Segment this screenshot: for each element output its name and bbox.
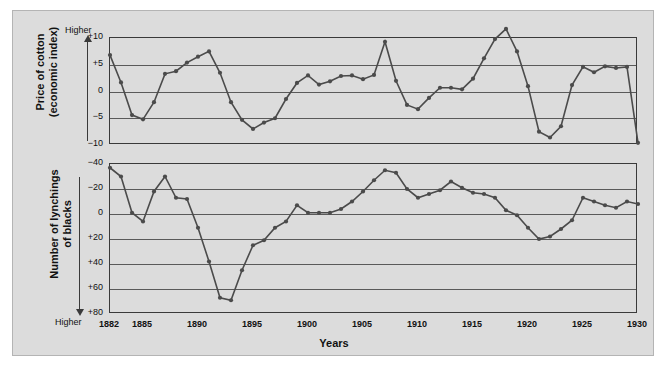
lynchings-of-blacks-point: [592, 199, 596, 203]
lynchings-of-blacks-point: [471, 191, 475, 195]
top-y-axis-title: Price of cotton (economic index): [34, 12, 60, 132]
lynchings-of-blacks-point: [196, 226, 200, 230]
lynchings-of-blacks-point: [383, 168, 387, 172]
price-of-cotton-point: [603, 64, 607, 68]
lynchings-of-blacks-point: [251, 243, 255, 247]
lynchings-of-blacks-point: [284, 219, 288, 223]
lynchings-of-blacks-markers: [108, 166, 640, 303]
bottom-plot-area: [109, 163, 637, 313]
bottom-series-svg: [110, 164, 638, 314]
top-y-axis-title-line1: Price of cotton: [34, 34, 46, 111]
price-of-cotton-point: [229, 100, 233, 104]
bottom-y-tick-label: +40: [69, 257, 103, 267]
x-tick-label: 1910: [397, 319, 437, 329]
price-of-cotton-point: [306, 73, 310, 77]
lynchings-of-blacks-point: [273, 226, 277, 230]
lynchings-of-blacks-point: [207, 259, 211, 263]
price-of-cotton-point: [614, 66, 618, 70]
price-of-cotton-point: [295, 81, 299, 85]
lynchings-of-blacks-line: [110, 168, 638, 301]
top-y-axis-title-line2: (economic index): [47, 27, 59, 117]
top-plot-area: [109, 37, 637, 144]
price-of-cotton-point: [361, 77, 365, 81]
price-of-cotton-point: [493, 37, 497, 41]
lynchings-of-blacks-point: [218, 296, 222, 300]
price-of-cotton-point: [416, 107, 420, 111]
lynchings-of-blacks-point: [625, 199, 629, 203]
lynchings-of-blacks-point: [603, 203, 607, 207]
bottom-y-axis-title: Number of lynchings of blacks: [48, 154, 74, 294]
price-of-cotton-point: [504, 27, 508, 31]
price-of-cotton-point: [405, 103, 409, 107]
top-y-tick-label: −10: [69, 138, 103, 148]
price-of-cotton-point: [394, 79, 398, 83]
figure-panel: Higher Price of cotton (economic index) …: [12, 10, 654, 356]
price-of-cotton-point: [119, 80, 123, 84]
lynchings-of-blacks-point: [372, 178, 376, 182]
lynchings-of-blacks-point: [185, 197, 189, 201]
lynchings-of-blacks-point: [449, 179, 453, 183]
price-of-cotton-point: [130, 113, 134, 117]
price-of-cotton-point: [526, 84, 530, 88]
price-of-cotton-point: [174, 69, 178, 73]
price-of-cotton-point: [438, 86, 442, 90]
price-of-cotton-point: [108, 53, 112, 57]
price-of-cotton-point: [339, 74, 343, 78]
top-y-tick-label: −5: [69, 111, 103, 121]
price-of-cotton-point: [251, 127, 255, 131]
price-of-cotton-point: [515, 49, 519, 53]
lynchings-of-blacks-point: [240, 268, 244, 272]
lynchings-of-blacks-point: [350, 199, 354, 203]
price-of-cotton-point: [240, 118, 244, 122]
lynchings-of-blacks-point: [548, 234, 552, 238]
price-of-cotton-point: [482, 56, 486, 60]
price-of-cotton-point: [449, 86, 453, 90]
lynchings-of-blacks-point: [317, 211, 321, 215]
price-of-cotton-point: [581, 65, 585, 69]
lynchings-of-blacks-point: [152, 189, 156, 193]
price-of-cotton-point: [262, 120, 266, 124]
price-of-cotton-point: [559, 124, 563, 128]
price-of-cotton-point: [625, 65, 629, 69]
x-tick-label: 1900: [287, 319, 327, 329]
lynchings-of-blacks-point: [427, 192, 431, 196]
lynchings-of-blacks-point: [394, 171, 398, 175]
lynchings-of-blacks-point: [570, 218, 574, 222]
lynchings-of-blacks-point: [515, 213, 519, 217]
lynchings-of-blacks-point: [438, 188, 442, 192]
lynchings-of-blacks-point: [306, 211, 310, 215]
x-tick-label: 1915: [452, 319, 492, 329]
lynchings-of-blacks-point: [581, 196, 585, 200]
bottom-direction-tag: Higher: [55, 317, 82, 327]
lynchings-of-blacks-point: [460, 186, 464, 190]
x-tick-label: 1895: [232, 319, 272, 329]
lynchings-of-blacks-point: [559, 227, 563, 231]
price-of-cotton-point: [152, 100, 156, 104]
price-of-cotton-point: [196, 55, 200, 59]
bottom-y-tick-label: +60: [69, 282, 103, 292]
x-tick-label: 1930: [617, 319, 657, 329]
lynchings-of-blacks-point: [493, 196, 497, 200]
price-of-cotton-point: [350, 73, 354, 77]
lynchings-of-blacks-point: [504, 208, 508, 212]
lynchings-of-blacks-point: [119, 174, 123, 178]
bottom-y-tick-label: 0: [69, 207, 103, 217]
bottom-y-axis-title-line1: Number of lynchings: [48, 169, 60, 278]
lynchings-of-blacks-point: [339, 207, 343, 211]
price-of-cotton-markers: [108, 27, 640, 145]
bottom-y-tick-label: +20: [69, 232, 103, 242]
price-of-cotton-point: [284, 97, 288, 101]
lynchings-of-blacks-point: [229, 298, 233, 302]
price-of-cotton-point: [636, 141, 640, 145]
lynchings-of-blacks-point: [636, 202, 640, 206]
bottom-y-tick-label: +80: [69, 307, 103, 317]
price-of-cotton-point: [372, 73, 376, 77]
top-series-svg: [110, 38, 638, 145]
price-of-cotton-point: [383, 40, 387, 44]
x-tick-label: 1885: [122, 319, 162, 329]
lynchings-of-blacks-point: [537, 237, 541, 241]
price-of-cotton-point: [537, 130, 541, 134]
price-of-cotton-point: [427, 96, 431, 100]
lynchings-of-blacks-point: [174, 196, 178, 200]
lynchings-of-blacks-point: [361, 189, 365, 193]
